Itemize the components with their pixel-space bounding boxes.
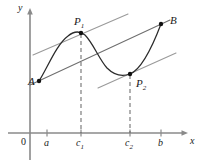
- point-dot-p1: [79, 31, 83, 35]
- origin-label: 0: [21, 137, 26, 147]
- point-label-p2-subscript: 2: [143, 84, 147, 92]
- point-label-p2: P2: [136, 78, 146, 92]
- point-label-p2-base: P: [136, 77, 143, 89]
- point-label-a: A: [28, 76, 35, 87]
- tick-label-b: b: [158, 138, 163, 148]
- tick-label-a: a: [44, 138, 49, 148]
- tick-label-c1: c1: [76, 138, 84, 151]
- figure-canvas: y x 0 a c1 c2 b A P1 P2 B: [0, 0, 206, 162]
- x-axis-arrowhead: [182, 130, 189, 136]
- tick-label-c2-subscript: 2: [129, 143, 133, 151]
- point-label-p1: P1: [74, 16, 84, 30]
- point-label-b: B: [170, 15, 177, 26]
- x-axis-label: x: [190, 136, 194, 146]
- y-axis-arrowhead: [27, 8, 33, 15]
- tick-label-c2: c2: [125, 138, 133, 151]
- point-dot-a: [37, 79, 41, 83]
- y-axis-label: y: [18, 3, 22, 13]
- point-dot-p2: [128, 72, 132, 76]
- tick-label-c1-subscript: 1: [80, 143, 84, 151]
- point-label-p1-subscript: 1: [81, 22, 85, 30]
- point-label-p1-base: P: [74, 15, 81, 27]
- point-dot-b: [159, 22, 163, 26]
